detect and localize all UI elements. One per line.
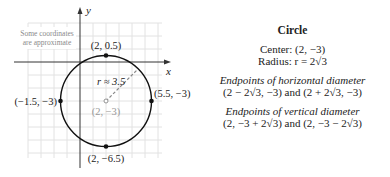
center-radius-block: Center: (2, −3) Radius: r = 2√3 <box>200 43 385 68</box>
x-axis-arrow-icon <box>164 60 171 65</box>
circle-graph: Some coordinates are approximate y x (2,… <box>0 0 195 177</box>
center-point <box>104 99 108 103</box>
radius-label: r ≈ 3.5 <box>97 76 125 87</box>
y-axis-arrow-icon <box>78 7 83 14</box>
note-line-2: are approximate <box>23 38 72 47</box>
point-top-label: (2, 0.5) <box>91 40 122 52</box>
point-left <box>58 99 63 104</box>
point-right <box>149 99 154 104</box>
circle-info-panel: Circle Center: (2, −3) Radius: r = 2√3 E… <box>200 24 385 136</box>
point-top <box>104 53 109 58</box>
vertical-values: (2, −3 + 2√3) and (2, −3 − 2√3) <box>200 117 385 130</box>
center-text: Center: (2, −3) <box>200 43 385 56</box>
horizontal-diameter-block: Endpoints of horizontal diameter (2 − 2√… <box>200 74 385 99</box>
center-label: (2, −3) <box>92 106 121 118</box>
point-bottom <box>104 144 109 149</box>
y-axis-label: y <box>85 4 91 16</box>
note-line-1: Some coordinates <box>20 29 74 38</box>
vertical-diameter-block: Endpoints of vertical diameter (2, −3 + … <box>200 105 385 130</box>
point-left-label: (−1.5, −3) <box>15 96 58 108</box>
x-axis-label: x <box>165 65 171 77</box>
point-right-label: (5.5, −3) <box>154 88 191 100</box>
vertical-heading: Endpoints of vertical diameter <box>200 105 385 118</box>
point-bottom-label: (2, −6.5) <box>88 153 125 165</box>
horizontal-values: (2 − 2√3, −3) and (2 + 2√3, −3) <box>200 86 385 99</box>
radius-text: Radius: r = 2√3 <box>200 55 385 68</box>
horizontal-heading: Endpoints of horizontal diameter <box>200 74 385 87</box>
info-title: Circle <box>200 24 385 37</box>
